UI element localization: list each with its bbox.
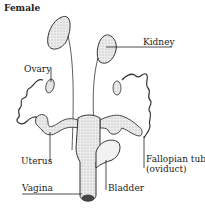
label-oviduct: (oviduct): [146, 164, 187, 174]
label-bladder: Bladder: [108, 183, 144, 193]
label-ovary: Ovary: [24, 64, 51, 74]
left-ureter: [68, 36, 73, 150]
left-uterine-horn: [35, 115, 78, 135]
left-ovary: [44, 78, 55, 94]
right-kidney: [97, 35, 116, 63]
right-uterine-horn: [100, 115, 142, 136]
left-kidney: [48, 16, 70, 49]
vaginal-opening: [82, 195, 94, 201]
right-ovary: [113, 81, 121, 95]
label-vagina: Vagina: [22, 183, 53, 193]
label-uterus: Uterus: [21, 156, 52, 166]
label-fallopian-tube: Fallopian tube: [146, 154, 205, 164]
label-kidney: Kidney: [143, 37, 175, 47]
female-reproductive-diagram: [0, 0, 205, 213]
diagram-title: Female: [4, 3, 40, 13]
